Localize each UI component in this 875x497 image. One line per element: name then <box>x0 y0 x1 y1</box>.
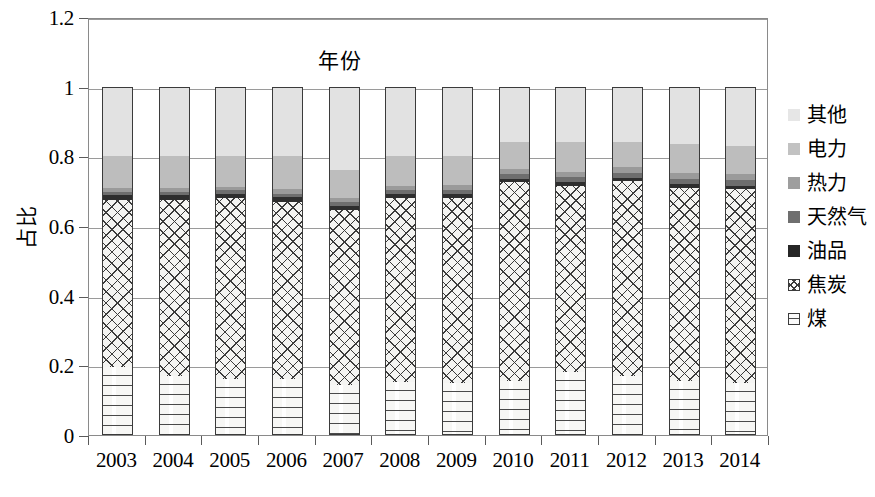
legend-item-heat[interactable]: 热力 <box>788 166 872 200</box>
bar-segment-coal[interactable] <box>329 385 360 435</box>
bar-segment-other[interactable] <box>215 87 246 157</box>
bar-segment-oil[interactable] <box>215 194 246 199</box>
bar-segment-heat[interactable] <box>385 186 416 191</box>
bar-segment-coke[interactable] <box>102 200 133 367</box>
bar-segment-coke[interactable] <box>272 202 303 380</box>
bar-segment-gas[interactable] <box>329 202 360 205</box>
bar-segment-coal[interactable] <box>215 379 246 435</box>
bar-segment-other[interactable] <box>725 87 756 146</box>
bar-2008[interactable] <box>385 17 416 435</box>
bar-2005[interactable] <box>215 17 246 435</box>
bar-segment-heat[interactable] <box>499 169 530 174</box>
bar-segment-heat[interactable] <box>272 189 303 193</box>
bar-segment-oil[interactable] <box>159 195 190 200</box>
bar-2011[interactable] <box>555 17 586 435</box>
bar-2010[interactable] <box>499 17 530 435</box>
bar-2014[interactable] <box>725 17 756 435</box>
bar-segment-heat[interactable] <box>329 198 360 202</box>
bar-segment-oil[interactable] <box>272 197 303 202</box>
bar-segment-power[interactable] <box>725 146 756 174</box>
bar-segment-gas[interactable] <box>442 190 473 194</box>
legend-item-gas[interactable]: 天然气 <box>788 200 872 234</box>
bar-segment-other[interactable] <box>442 87 473 157</box>
bar-2006[interactable] <box>272 17 303 435</box>
bar-segment-gas[interactable] <box>159 192 190 195</box>
bar-segment-gas[interactable] <box>215 190 246 193</box>
bar-segment-other[interactable] <box>159 87 190 157</box>
bar-segment-power[interactable] <box>215 156 246 186</box>
legend-item-power[interactable]: 电力 <box>788 132 872 166</box>
bar-segment-gas[interactable] <box>385 190 416 194</box>
bar-segment-gas[interactable] <box>612 173 643 178</box>
bar-2007[interactable] <box>329 17 360 435</box>
bar-segment-coke[interactable] <box>612 181 643 375</box>
bar-segment-oil[interactable] <box>612 178 643 181</box>
legend-item-coal[interactable]: 煤 <box>788 302 872 336</box>
bar-segment-power[interactable] <box>102 156 133 188</box>
bar-segment-coal[interactable] <box>385 382 416 435</box>
bar-segment-other[interactable] <box>272 87 303 157</box>
bar-segment-coke[interactable] <box>499 182 530 381</box>
bar-segment-oil[interactable] <box>555 182 586 186</box>
legend-item-oil[interactable]: 油品 <box>788 234 872 268</box>
bar-2013[interactable] <box>669 17 700 435</box>
bar-segment-other[interactable] <box>385 87 416 157</box>
bar-segment-heat[interactable] <box>102 188 133 191</box>
bar-segment-other[interactable] <box>499 87 530 143</box>
bar-segment-heat[interactable] <box>159 188 190 192</box>
legend-item-coke[interactable]: 焦炭 <box>788 268 872 302</box>
bar-segment-gas[interactable] <box>725 180 756 186</box>
bar-segment-oil[interactable] <box>385 194 416 198</box>
bar-segment-coal[interactable] <box>102 367 133 435</box>
bar-segment-heat[interactable] <box>442 185 473 190</box>
bar-segment-coke[interactable] <box>725 189 756 382</box>
bar-segment-coal[interactable] <box>669 381 700 435</box>
bar-segment-gas[interactable] <box>102 192 133 195</box>
bar-segment-coke[interactable] <box>385 198 416 382</box>
bar-segment-gas[interactable] <box>499 174 530 179</box>
bar-segment-gas[interactable] <box>555 177 586 182</box>
bar-segment-power[interactable] <box>329 170 360 198</box>
bar-segment-coal[interactable] <box>555 372 586 435</box>
bar-segment-power[interactable] <box>385 156 416 185</box>
bar-segment-heat[interactable] <box>725 174 756 180</box>
bar-segment-power[interactable] <box>555 142 586 172</box>
bar-segment-oil[interactable] <box>725 186 756 189</box>
bar-segment-coke[interactable] <box>555 186 586 372</box>
bar-segment-heat[interactable] <box>215 187 246 191</box>
bar-segment-other[interactable] <box>102 87 133 157</box>
bar-segment-power[interactable] <box>159 156 190 188</box>
bar-segment-oil[interactable] <box>329 206 360 211</box>
bar-segment-coke[interactable] <box>669 188 700 381</box>
bar-segment-heat[interactable] <box>612 167 643 172</box>
bar-segment-power[interactable] <box>669 144 700 173</box>
bar-segment-oil[interactable] <box>442 194 473 198</box>
bar-segment-power[interactable] <box>442 156 473 185</box>
bar-2012[interactable] <box>612 17 643 435</box>
bar-segment-heat[interactable] <box>669 173 700 178</box>
bar-segment-heat[interactable] <box>555 172 586 177</box>
bar-segment-coke[interactable] <box>329 210 360 385</box>
bar-segment-oil[interactable] <box>102 195 133 200</box>
bar-segment-other[interactable] <box>612 87 643 143</box>
bar-segment-other[interactable] <box>669 87 700 144</box>
bar-segment-coal[interactable] <box>272 379 303 435</box>
bar-segment-coal[interactable] <box>159 376 190 435</box>
bar-segment-coke[interactable] <box>215 198 246 379</box>
bar-segment-oil[interactable] <box>499 179 530 183</box>
bar-segment-power[interactable] <box>612 142 643 167</box>
bar-segment-other[interactable] <box>555 87 586 143</box>
bar-segment-coal[interactable] <box>725 383 756 435</box>
bar-segment-power[interactable] <box>499 142 530 169</box>
bar-segment-coal[interactable] <box>499 381 530 435</box>
bar-segment-gas[interactable] <box>272 194 303 197</box>
legend-item-other[interactable]: 其他 <box>788 98 872 132</box>
bar-segment-coal[interactable] <box>612 376 643 435</box>
bar-2003[interactable] <box>102 17 133 435</box>
bar-segment-power[interactable] <box>272 156 303 189</box>
bar-segment-coke[interactable] <box>159 200 190 376</box>
bar-2009[interactable] <box>442 17 473 435</box>
bar-segment-coal[interactable] <box>442 383 473 435</box>
bar-segment-coke[interactable] <box>442 198 473 383</box>
bar-segment-oil[interactable] <box>669 184 700 187</box>
